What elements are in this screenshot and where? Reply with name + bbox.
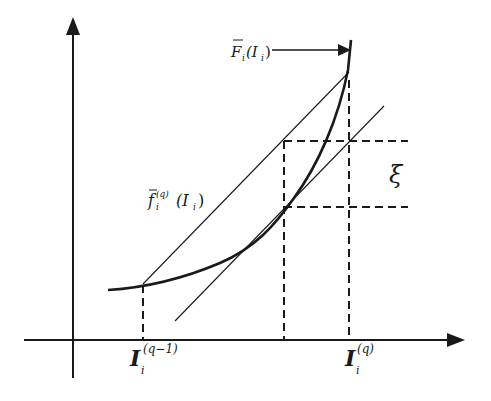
diagram-canvas: F i (I i ) f i (q) (I i ) ξ I i (q−1) I … [0, 0, 491, 401]
tangent-line [175, 106, 384, 321]
svg-text:I: I [129, 345, 141, 371]
curve-F [108, 40, 351, 290]
svg-text:i: i [242, 53, 245, 63]
svg-text:(q): (q) [357, 342, 374, 356]
chord-line [143, 72, 349, 284]
svg-text:i: i [141, 364, 145, 377]
svg-text:i: i [261, 53, 264, 63]
svg-text:F: F [230, 43, 242, 61]
svg-text:i: i [193, 202, 196, 212]
svg-text:(q): (q) [156, 189, 169, 199]
label-f-bar: f i (q) (I i ) [147, 189, 204, 212]
label-xi: ξ [389, 161, 404, 189]
dashed-guides [143, 80, 408, 340]
label-I-q: I i (q) [344, 342, 374, 377]
svg-text:I: I [344, 345, 356, 371]
svg-text:(q−1): (q−1) [143, 342, 178, 356]
svg-text:i: i [356, 364, 360, 377]
y-axis-arrow-icon [66, 17, 80, 35]
svg-text:(I: (I [176, 191, 189, 210]
svg-text:(I: (I [246, 43, 259, 61]
axes [24, 17, 465, 378]
label-F-bar: F i (I i ) [230, 40, 271, 63]
label-I-q-minus-1: I i (q−1) [129, 342, 178, 377]
svg-text:): ) [198, 191, 204, 210]
svg-text:): ) [265, 43, 271, 61]
x-axis-arrow-icon [447, 333, 465, 347]
svg-text:i: i [156, 202, 159, 212]
